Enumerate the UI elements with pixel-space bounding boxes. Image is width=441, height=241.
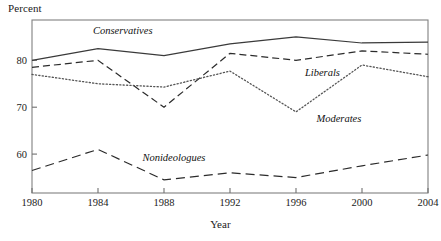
axis-ticks	[32, 60, 428, 193]
series-line-conservatives	[32, 37, 428, 60]
series-label-moderates: Moderates	[316, 113, 361, 124]
x-axis-tick-label: 1996	[286, 197, 307, 208]
x-axis-tick-label: 1984	[88, 197, 109, 208]
x-axis-tick-label: 1988	[154, 197, 175, 208]
y-axis-tick-label: 60	[2, 149, 27, 160]
x-axis-tick-label: 2000	[352, 197, 373, 208]
series-line-moderates	[32, 65, 428, 112]
x-axis-tick-label: 1980	[22, 197, 43, 208]
plot-border	[32, 20, 428, 193]
plot-frame	[32, 20, 428, 193]
y-axis-tick-label: 80	[2, 55, 27, 66]
series-line-nonideologues	[32, 149, 428, 179]
series-label-liberals: Liberals	[305, 66, 340, 77]
series-line-liberals	[32, 51, 428, 107]
data-series-lines	[32, 37, 428, 180]
x-axis-tick-label: 2004	[418, 197, 439, 208]
series-label-conservatives: Conservatives	[93, 24, 153, 35]
series-label-nonideologues: Nonideologues	[142, 151, 205, 162]
x-axis-tick-label: 1992	[220, 197, 241, 208]
y-axis-tick-label: 70	[2, 102, 27, 113]
line-chart-figure: Percent Year 607080198019841988199219962…	[0, 0, 441, 241]
